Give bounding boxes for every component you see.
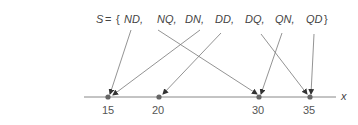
set-close-brace: } [324, 13, 328, 25]
arrow-dd-to-20 [163, 33, 221, 94]
arrow-nq-to-30 [158, 30, 257, 94]
point-20 [156, 94, 161, 99]
tick-label-20: 20 [152, 104, 164, 116]
point-30 [256, 94, 261, 99]
arrow-qd-to-35 [311, 34, 314, 94]
set-name: S [96, 13, 104, 25]
tick-label-30: 30 [252, 104, 264, 116]
set-open-brace: { [116, 13, 120, 25]
tick-label-35: 35 [303, 104, 315, 116]
set-equals: = [105, 13, 111, 25]
set-element-nq: NQ, [157, 13, 177, 25]
set-element-dn: DN, [185, 13, 204, 25]
point-35 [307, 94, 312, 99]
sample-space-diagram: S = { ND, NQ, DN, DD, DQ, QN, QD } x 15 … [0, 0, 358, 125]
set-element-qn: QN, [275, 13, 295, 25]
x-axis-label: x [340, 90, 347, 102]
set-element-dd: DD, [215, 13, 234, 25]
tick-label-15: 15 [102, 104, 114, 116]
set-element-dq: DQ, [245, 13, 265, 25]
set-element-qd: QD [306, 13, 323, 25]
arrow-dn-to-15 [113, 30, 200, 95]
arrow-qn-to-30 [261, 33, 282, 94]
arrow-dq-to-35 [261, 34, 307, 94]
set-element-nd: ND, [124, 13, 143, 25]
point-15 [105, 94, 110, 99]
